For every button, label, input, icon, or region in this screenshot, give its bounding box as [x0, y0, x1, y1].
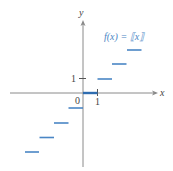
- function-label: f(x) = ⟦x⟧: [104, 31, 145, 43]
- x-axis-label: x: [159, 87, 165, 98]
- origin-label: 0: [75, 95, 80, 106]
- y-tick-label-1: 1: [71, 73, 76, 84]
- y-axis-label: y: [78, 7, 84, 18]
- x-tick-label-1: 1: [95, 96, 100, 107]
- step-function-plot: x y 0 1 1 f(x) = ⟦x⟧: [0, 0, 173, 171]
